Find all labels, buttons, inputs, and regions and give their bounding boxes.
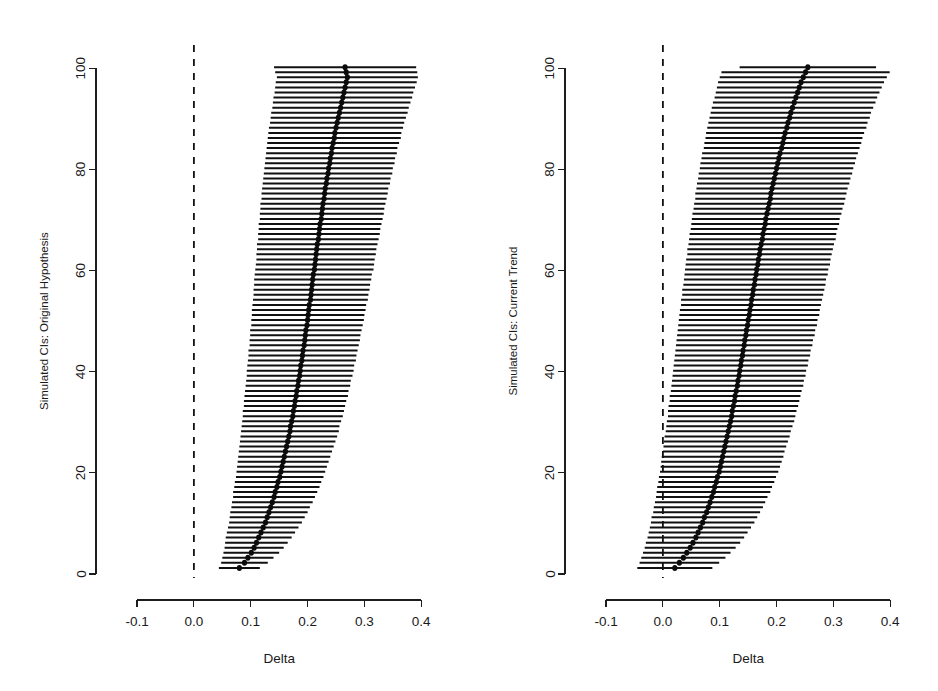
y-tick-label: 100 — [543, 57, 558, 80]
y-axis-title: Simulated CIs: Original Hypothesis — [38, 232, 50, 410]
estimate-point — [303, 332, 308, 338]
y-tick-label: 20 — [74, 465, 89, 480]
estimate-point — [754, 266, 759, 272]
estimate-point — [740, 347, 745, 353]
y-tick-label: 60 — [74, 263, 89, 278]
estimate-point — [726, 428, 731, 434]
estimate-point — [338, 105, 343, 111]
estimate-point — [805, 64, 810, 70]
estimate-point — [319, 211, 324, 217]
estimate-point — [742, 342, 747, 348]
estimate-point — [290, 413, 295, 419]
y-tick-label: 60 — [543, 263, 558, 278]
estimate-point — [720, 454, 725, 460]
estimate-point — [702, 514, 707, 520]
estimate-point — [277, 474, 282, 480]
estimate-point — [298, 368, 303, 374]
estimate-point — [258, 530, 263, 536]
estimate-point — [722, 444, 727, 450]
estimate-point — [322, 191, 327, 197]
estimate-point — [732, 393, 737, 399]
estimate-point — [775, 160, 780, 166]
estimate-point — [787, 115, 792, 121]
estimate-point — [342, 84, 347, 90]
figure-canvas: -0.10.00.10.20.30.4Delta020406080100Simu… — [0, 0, 938, 691]
estimate-point — [302, 342, 307, 348]
estimate-point — [768, 196, 773, 202]
estimate-point — [757, 246, 762, 252]
estimate-point — [803, 69, 808, 75]
estimate-point — [307, 302, 312, 308]
estimate-point — [245, 555, 250, 561]
estimate-point — [798, 79, 803, 85]
estimate-point — [344, 79, 349, 85]
estimate-point — [323, 186, 328, 192]
estimate-point — [698, 524, 703, 530]
estimate-point — [261, 524, 266, 530]
y-tick-label: 0 — [74, 570, 89, 578]
estimate-dots-group — [237, 64, 350, 571]
estimate-point — [254, 540, 259, 546]
estimate-point — [731, 403, 736, 409]
estimate-point — [294, 388, 299, 394]
estimate-point — [728, 418, 733, 424]
estimate-point — [718, 464, 723, 470]
panel-current-trend: -0.10.00.10.20.30.4Delta020406080100Simu… — [469, 0, 938, 691]
estimate-point — [711, 489, 716, 495]
estimate-point — [745, 322, 750, 328]
estimate-point — [316, 236, 321, 242]
estimate-point — [767, 201, 772, 207]
estimate-point — [242, 560, 247, 566]
estimate-point — [781, 135, 786, 141]
x-tick-label: 0.3 — [355, 614, 374, 629]
estimate-point — [749, 297, 754, 303]
x-tick-label: 0.0 — [654, 614, 673, 629]
estimate-point — [292, 398, 297, 404]
estimate-point — [344, 69, 349, 75]
estimate-point — [740, 352, 745, 358]
y-tick-label: 40 — [543, 364, 558, 379]
estimate-point — [342, 64, 347, 70]
estimate-point — [320, 206, 325, 212]
estimate-point — [693, 535, 698, 541]
estimate-point — [341, 89, 346, 95]
estimate-point — [312, 261, 317, 267]
plot-left: -0.10.00.10.20.30.4Delta020406080100Simu… — [0, 0, 469, 691]
estimate-point — [336, 115, 341, 121]
x-tick-label: 0.3 — [824, 614, 843, 629]
estimate-point — [332, 135, 337, 141]
estimate-point — [295, 383, 300, 389]
estimate-point — [328, 155, 333, 161]
estimate-point — [723, 438, 728, 444]
estimate-point — [279, 464, 284, 470]
plot-right: -0.10.00.10.20.30.4Delta020406080100Simu… — [469, 0, 938, 691]
estimate-point — [339, 100, 344, 106]
x-tick-label: 0.0 — [185, 614, 204, 629]
estimate-point — [327, 160, 332, 166]
y-tick-label: 20 — [543, 465, 558, 480]
estimate-point — [742, 337, 747, 343]
y-tick-label: 80 — [543, 162, 558, 177]
estimate-point — [291, 408, 296, 414]
estimate-point — [313, 256, 318, 262]
estimate-point — [325, 170, 330, 176]
estimate-point — [329, 150, 334, 156]
estimate-point — [278, 469, 283, 475]
estimate-point — [300, 347, 305, 353]
y-tick-label: 80 — [74, 162, 89, 177]
y-axis-title: Simulated CIs: Current Trend — [507, 247, 519, 396]
estimate-point — [759, 241, 764, 247]
estimate-point — [763, 216, 768, 222]
estimate-point — [769, 186, 774, 192]
estimate-point — [765, 206, 770, 212]
estimate-point — [746, 317, 751, 323]
estimate-point — [311, 272, 316, 278]
estimate-point — [287, 428, 292, 434]
estimate-point — [306, 307, 311, 313]
estimate-point — [302, 337, 307, 343]
estimate-point — [252, 545, 257, 551]
estimate-point — [688, 545, 693, 551]
x-axis-title: Delta — [732, 651, 764, 666]
estimate-point — [747, 307, 752, 313]
estimate-point — [721, 449, 726, 455]
